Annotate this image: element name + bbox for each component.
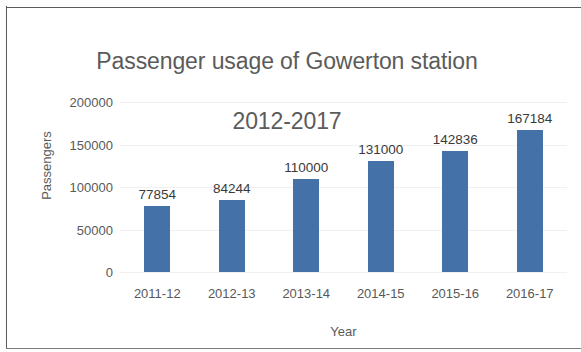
plot-area: 050000100000150000200000 778542011-12842…	[120, 102, 567, 272]
x-axis-tick-label: 2015-16	[431, 286, 479, 301]
bar[interactable]	[293, 179, 319, 273]
bar-slot: 1671842016-17	[493, 102, 568, 272]
y-axis-tick-label: 200000	[70, 95, 113, 110]
x-axis-tick-label: 2016-17	[506, 286, 554, 301]
bar-value-label: 110000	[284, 160, 328, 175]
page-border-bottom	[6, 348, 581, 349]
bar-value-label: 142836	[433, 132, 478, 147]
bar[interactable]	[219, 200, 245, 272]
x-axis-tick-label: 2014-15	[357, 286, 405, 301]
x-axis-tick-label: 2012-13	[208, 286, 256, 301]
x-axis-title: Year	[120, 324, 567, 339]
bar-series: 778542011-12842442012-131100002013-14131…	[120, 102, 567, 272]
bar[interactable]	[517, 130, 543, 272]
bar-slot: 1100002013-14	[269, 102, 344, 272]
bar-slot: 842442012-13	[195, 102, 270, 272]
bar-slot: 1310002014-15	[344, 102, 419, 272]
y-axis-tick-label: 100000	[70, 180, 113, 195]
bar-value-label: 131000	[358, 142, 403, 157]
bar[interactable]	[442, 151, 468, 272]
bar[interactable]	[144, 206, 170, 272]
bar-chart: Passenger usage of Gowerton station 2012…	[7, 8, 581, 348]
bar-slot: 1428362015-16	[418, 102, 493, 272]
bar-value-label: 167184	[507, 111, 552, 126]
bar-value-label: 84244	[213, 181, 251, 196]
chart-page: Passenger usage of Gowerton station 2012…	[0, 0, 581, 352]
x-axis-tick-label: 2013-14	[282, 286, 330, 301]
chart-title-line-1: Passenger usage of Gowerton station	[96, 48, 477, 74]
y-axis-title: Passengers	[39, 121, 54, 211]
bar-value-label: 77854	[138, 187, 176, 202]
gridline	[120, 272, 567, 273]
bar-slot: 778542011-12	[120, 102, 195, 272]
y-axis-tick-label: 0	[106, 265, 113, 280]
x-axis-tick-label: 2011-12	[134, 286, 181, 301]
y-axis-tick-label: 50000	[77, 222, 113, 237]
bar[interactable]	[368, 161, 394, 272]
y-axis-tick-label: 150000	[70, 137, 113, 152]
